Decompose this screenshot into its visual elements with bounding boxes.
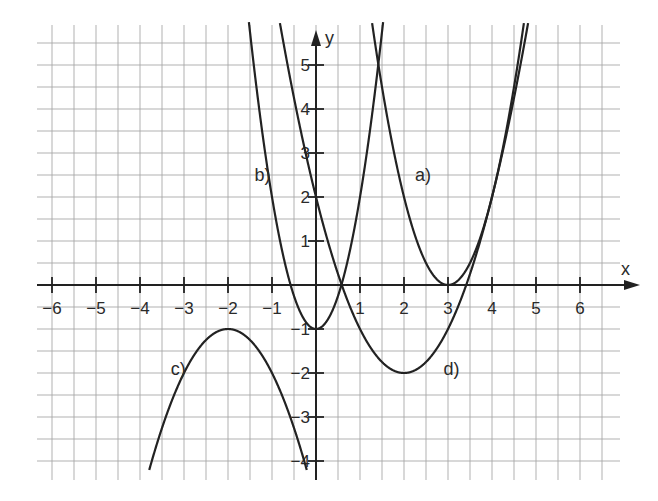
x-tick-label: −3 <box>174 299 193 318</box>
y-tick-label: 5 <box>301 56 310 75</box>
y-tick-label: 4 <box>301 100 310 119</box>
y-tick-label: −2 <box>291 364 310 383</box>
x-tick-label: 3 <box>443 299 452 318</box>
x-axis-arrow-icon <box>624 280 640 290</box>
y-axis-label: y <box>325 28 334 48</box>
x-axis-label: x <box>621 259 630 279</box>
x-tick-label: −2 <box>218 299 237 318</box>
tick-labels: −6−5−4−3−2−1123456−4−3−2−112345 <box>42 56 584 471</box>
parabola-chart: xy −6−5−4−3−2−1123456−4−3−2−112345 a)b)c… <box>0 0 658 501</box>
y-tick-label: 1 <box>301 232 310 251</box>
x-tick-label: 2 <box>399 299 408 318</box>
x-tick-label: −4 <box>130 299 149 318</box>
x-tick-label: −6 <box>42 299 61 318</box>
x-tick-label: 5 <box>531 299 540 318</box>
curve-label: b) <box>254 165 270 185</box>
x-tick-label: −5 <box>86 299 105 318</box>
grid <box>37 25 620 480</box>
x-tick-label: 6 <box>575 299 584 318</box>
x-tick-label: 4 <box>487 299 496 318</box>
x-tick-label: 1 <box>355 299 364 318</box>
x-tick-label: −1 <box>262 299 281 318</box>
curve-label: a) <box>415 165 431 185</box>
curve-label: c) <box>171 359 186 379</box>
axes: xy <box>37 28 640 480</box>
y-tick-label: 2 <box>301 188 310 207</box>
curve-label: d) <box>444 359 460 379</box>
y-axis-arrow-icon <box>311 30 321 46</box>
